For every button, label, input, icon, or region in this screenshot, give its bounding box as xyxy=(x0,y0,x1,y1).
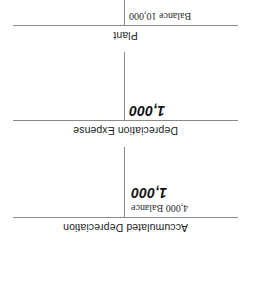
t-account-body: Balance 10,000 xyxy=(13,0,238,25)
t-account-body: 1,000 xyxy=(13,48,238,120)
t-account-top-rule xyxy=(13,217,238,218)
t-account-body: 4,000 Balance 1,000 xyxy=(13,145,238,217)
t-account-diagram: Plant Balance 10,000 Depreciation Expens… xyxy=(0,0,253,292)
t-account-title: Depreciation Expense xyxy=(13,125,238,137)
t-account-debit-entry: Balance 10,000 xyxy=(129,11,191,22)
t-account-credit-entry: 1,000 xyxy=(131,185,167,201)
t-account-debit-entry: 1,000 xyxy=(129,103,165,119)
t-account-top-rule xyxy=(13,120,238,121)
t-account-credit-balance: 4,000 Balance xyxy=(131,203,188,214)
t-account-title: Accumulated Depreciation xyxy=(13,222,238,234)
t-account-top-rule xyxy=(13,25,238,26)
t-account-title: Plant xyxy=(13,30,238,42)
